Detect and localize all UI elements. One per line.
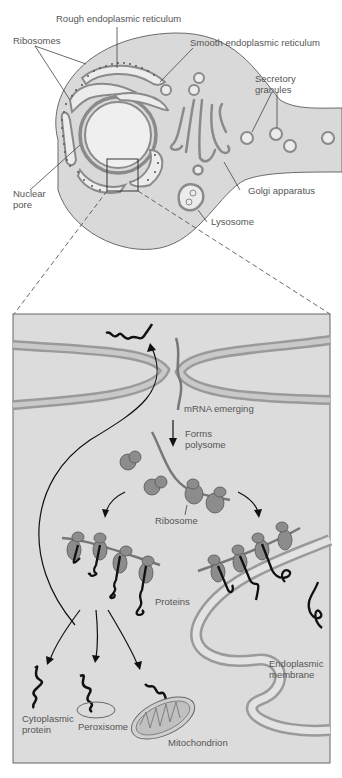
zoom-line-right: [138, 191, 330, 314]
label-proteins: Proteins: [155, 596, 190, 607]
label-forms: Forms: [185, 428, 212, 439]
label-endoplasmic: Endoplasmic: [269, 658, 324, 669]
label-smooth-er: Smooth endoplasmic reticulum: [190, 37, 320, 48]
lysosome: [179, 184, 204, 210]
label-ribosomes: Ribosomes: [13, 35, 61, 46]
cell-diagram: Rough endoplasmic reticulum Ribosomes Sm…: [0, 0, 342, 778]
label-mrna: mRNA emerging: [184, 403, 254, 414]
label-membrane: membrane: [269, 669, 314, 680]
label-peroxisome: Peroxisome: [78, 721, 128, 732]
label-golgi: Golgi apparatus: [248, 185, 315, 196]
label-protein: protein: [22, 724, 51, 735]
label-ribosome: Ribosome: [155, 515, 198, 526]
nucleus: [80, 97, 156, 173]
label-polysome: polysome: [185, 439, 226, 450]
label-lysosome: Lysosome: [211, 216, 254, 227]
label-nuclear: Nuclear: [13, 188, 46, 199]
label-cytoplasmic: Cytoplasmic: [22, 713, 74, 724]
label-mitochondrion: Mitochondrion: [168, 737, 228, 748]
label-secretory: Secretory: [255, 73, 296, 84]
label-rough-er: Rough endoplasmic reticulum: [56, 13, 181, 24]
label-granules: granules: [255, 84, 292, 95]
label-pore: pore: [13, 199, 32, 210]
